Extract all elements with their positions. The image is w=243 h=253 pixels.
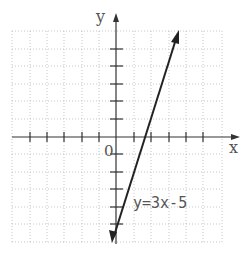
x-axis: [12, 132, 240, 142]
y-axis: [110, 13, 123, 244]
x-axis-label: x: [229, 138, 238, 157]
equation-label: y=3x-5: [133, 194, 187, 212]
line-arrow-up-icon: [171, 30, 179, 44]
coordinate-plane: y x 0 y=3x-5: [0, 0, 243, 253]
y-axis-arrow-icon: [113, 13, 119, 22]
origin-label: 0: [104, 142, 114, 160]
y-axis-label: y: [95, 7, 105, 26]
